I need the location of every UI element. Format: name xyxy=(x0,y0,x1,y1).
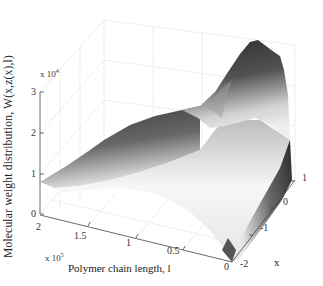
z-tick-label: 1 xyxy=(31,169,36,179)
l-axis-multiplier: x 105 xyxy=(45,252,64,263)
x-tick-label: 0 xyxy=(283,197,288,207)
z-tick-label: 0 xyxy=(31,209,36,219)
z-tick-label: 2 xyxy=(31,128,36,138)
surface-plot xyxy=(0,0,323,286)
x-tick-label: 1 xyxy=(302,173,307,183)
l-tick-label: 1 xyxy=(126,238,131,248)
z-axis-multiplier: x 104 xyxy=(40,68,59,79)
l-tick-label: 1.5 xyxy=(74,231,87,241)
l-tick-label: 0 xyxy=(224,262,229,272)
x-tick-label: -1 xyxy=(260,223,268,233)
z-tick-label: 3 xyxy=(31,87,36,97)
z-axis-label: Molecular weight distribution, W(x,z(x),… xyxy=(2,55,14,258)
l-tick-label: 0.5 xyxy=(167,246,180,256)
x-axis-label: x xyxy=(274,256,280,268)
l-tick-label: 2 xyxy=(36,222,41,232)
surface xyxy=(40,40,292,262)
x-tick-label: -2 xyxy=(240,259,248,269)
l-axis-label: Polymer chain length, l xyxy=(68,262,171,274)
